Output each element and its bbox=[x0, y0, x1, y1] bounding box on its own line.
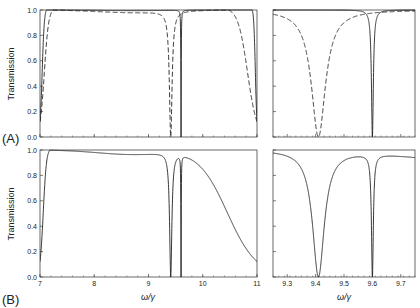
series-dashed-line bbox=[40, 10, 257, 137]
plot-panel-a-left: 0.00.20.40.60.81.0 bbox=[27, 7, 257, 141]
plot-panels: 0.00.20.40.60.81.00.00.20.40.60.81.07891… bbox=[27, 7, 415, 288]
plot-frame bbox=[40, 10, 257, 137]
panel-label-a: (A) bbox=[2, 131, 19, 146]
plot-frame bbox=[273, 150, 415, 277]
y-axis-label-top: Transmission bbox=[6, 47, 16, 100]
series-solid-line bbox=[40, 150, 257, 277]
figure-canvas: 0.00.20.40.60.81.00.00.20.40.60.81.07891… bbox=[0, 0, 420, 308]
x-tick-label: 11 bbox=[253, 280, 260, 287]
plot-frame bbox=[40, 150, 257, 277]
y-tick-label: 0.2 bbox=[27, 248, 37, 255]
y-tick-label: 0.8 bbox=[27, 32, 37, 39]
plot-panel-b-left: 0.00.20.40.60.81.07891011 bbox=[27, 147, 260, 288]
transmission-figure: 0.00.20.40.60.81.00.00.20.40.60.81.07891… bbox=[0, 0, 420, 308]
x-tick-label: 9 bbox=[147, 280, 151, 287]
x-tick-label: 9.7 bbox=[396, 280, 406, 287]
y-tick-label: 0.4 bbox=[27, 223, 37, 230]
x-tick-label: 8 bbox=[92, 280, 96, 287]
x-tick-label: 9.6 bbox=[368, 280, 378, 287]
series-solid-line bbox=[40, 10, 257, 137]
y-tick-label: 0.6 bbox=[27, 197, 37, 204]
y-tick-label: 0.4 bbox=[27, 83, 37, 90]
y-tick-label: 0.0 bbox=[27, 274, 37, 281]
y-tick-label: 1.0 bbox=[27, 7, 37, 14]
x-tick-label: 7 bbox=[38, 280, 42, 287]
y-tick-label: 0.2 bbox=[27, 108, 37, 115]
series-dashed-line bbox=[273, 11, 415, 137]
y-tick-label: 1.0 bbox=[27, 147, 37, 154]
plot-panel-b-right: 9.39.49.59.69.7 bbox=[273, 150, 415, 287]
y-tick-label: 0.0 bbox=[27, 134, 37, 141]
x-tick-label: 10 bbox=[199, 280, 207, 287]
plot-panel-a-right bbox=[273, 10, 415, 137]
panel-label-b: (B) bbox=[2, 292, 19, 307]
series-solid-line bbox=[273, 10, 415, 137]
plot-frame bbox=[273, 10, 415, 137]
x-tick-label: 9.5 bbox=[339, 280, 349, 287]
y-tick-label: 0.6 bbox=[27, 57, 37, 64]
x-tick-label: 9.4 bbox=[311, 280, 321, 287]
x-tick-label: 9.3 bbox=[282, 280, 292, 287]
y-axis-label-bottom: Transmission bbox=[6, 187, 16, 240]
y-tick-label: 0.8 bbox=[27, 172, 37, 179]
x-axis-label-left: ω/γ bbox=[141, 292, 156, 302]
series-solid-line bbox=[273, 153, 415, 277]
x-axis-label-right: ω/γ bbox=[337, 292, 352, 302]
